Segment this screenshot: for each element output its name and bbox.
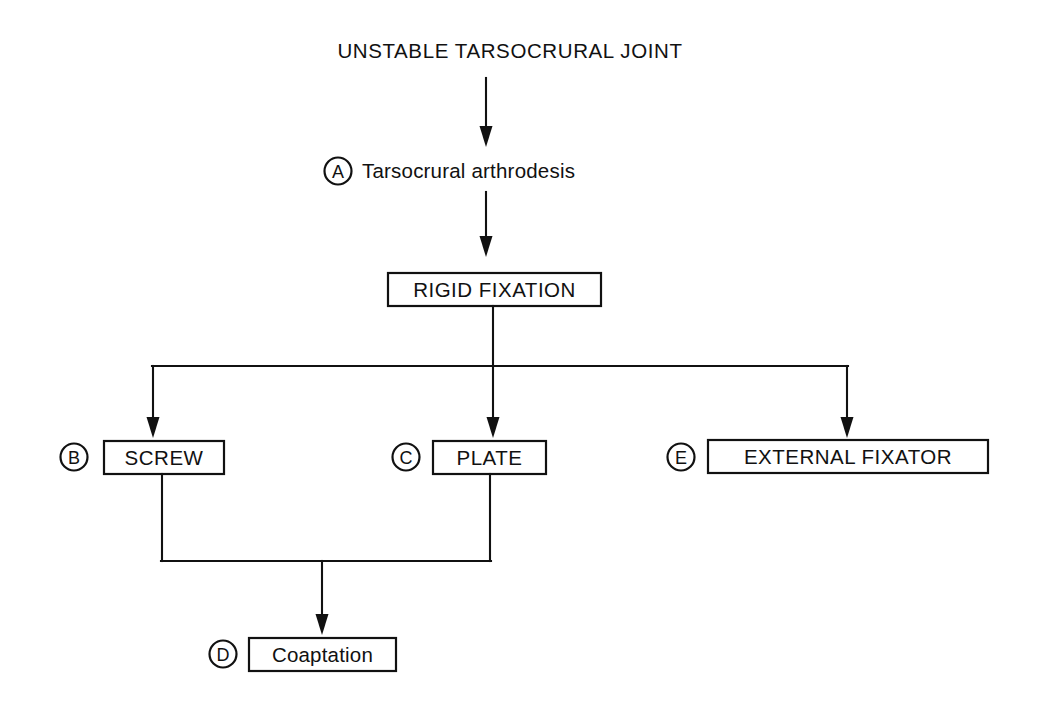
flowchart-svg: UNSTABLE TARSOCRURAL JOINT A Tarsocrural…: [0, 0, 1046, 705]
node-plate[interactable]: C PLATE: [393, 441, 547, 474]
arrowhead-icon: [480, 126, 493, 147]
arrowhead-icon: [487, 417, 500, 438]
node-screw[interactable]: B SCREW: [61, 441, 225, 474]
marker-letter-c: C: [400, 448, 413, 468]
node-coaptation[interactable]: D Coaptation: [210, 638, 397, 671]
node-label-rigid-fixation: RIGID FIXATION: [413, 278, 576, 301]
edge-merge-to-coaptation: [161, 474, 491, 635]
arrowhead-icon: [147, 417, 160, 438]
marker-letter-a: A: [332, 162, 344, 182]
node-arthrodesis[interactable]: A Tarsocrural arthrodesis: [325, 158, 576, 185]
edge-root-to-arthrodesis: [480, 78, 493, 147]
arrowhead-icon: [480, 236, 493, 257]
arrowhead-icon: [316, 614, 329, 635]
node-label-plate: PLATE: [457, 446, 523, 469]
node-external-fixator[interactable]: E EXTERNAL FIXATOR: [668, 440, 989, 473]
edge-rigid-fixation-branch-bus: [147, 306, 854, 438]
marker-letter-d: D: [217, 645, 230, 665]
node-label-root: UNSTABLE TARSOCRURAL JOINT: [337, 39, 682, 62]
node-label-coaptation: Coaptation: [272, 643, 373, 666]
node-label-arthrodesis: Tarsocrural arthrodesis: [362, 159, 575, 182]
node-rigid-fixation[interactable]: RIGID FIXATION: [388, 273, 601, 306]
node-label-external-fixator: EXTERNAL FIXATOR: [744, 445, 952, 468]
marker-letter-e: E: [675, 448, 687, 468]
flowchart-canvas: UNSTABLE TARSOCRURAL JOINT A Tarsocrural…: [0, 0, 1046, 705]
edge-arthrodesis-to-rigid-fixation: [480, 192, 493, 257]
node-label-screw: SCREW: [125, 446, 204, 469]
marker-letter-b: B: [68, 448, 80, 468]
arrowhead-icon: [841, 417, 854, 438]
